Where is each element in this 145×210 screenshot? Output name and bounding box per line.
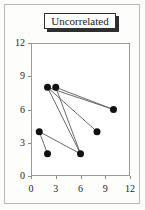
y-tick-label: 12 bbox=[7, 38, 25, 48]
chart-title-frame: Uncorrelated bbox=[44, 13, 116, 29]
x-tick-mark bbox=[31, 176, 32, 179]
data-point-marker bbox=[44, 150, 51, 157]
chart-title-box: Uncorrelated bbox=[44, 13, 118, 31]
x-tick-mark bbox=[81, 176, 82, 179]
chart-title-text: Uncorrelated bbox=[51, 16, 108, 27]
data-point-marker bbox=[77, 150, 84, 157]
x-tick-mark bbox=[105, 176, 106, 179]
x-tick-label: 6 bbox=[72, 184, 90, 194]
x-tick-label: 9 bbox=[96, 184, 114, 194]
data-point-marker bbox=[36, 128, 43, 135]
y-tick-mark bbox=[28, 43, 31, 44]
x-tick-label: 12 bbox=[121, 184, 139, 194]
data-point-marker bbox=[94, 128, 101, 135]
data-point-marker bbox=[110, 106, 117, 113]
scatter-plot-canvas bbox=[31, 43, 130, 176]
y-tick-mark bbox=[28, 76, 31, 77]
data-point-marker bbox=[44, 84, 51, 91]
y-tick-mark bbox=[28, 110, 31, 111]
y-tick-label: 0 bbox=[7, 171, 25, 181]
y-tick-label: 6 bbox=[7, 105, 25, 115]
figure-root: Uncorrelated 036912 036912 bbox=[0, 0, 145, 210]
connector-line bbox=[39, 132, 80, 154]
x-tick-mark bbox=[130, 176, 131, 179]
x-tick-label: 3 bbox=[47, 184, 65, 194]
y-tick-mark bbox=[28, 143, 31, 144]
connector-line bbox=[48, 87, 81, 154]
y-tick-label: 9 bbox=[7, 71, 25, 81]
y-tick-label: 3 bbox=[7, 138, 25, 148]
data-point-marker bbox=[52, 84, 59, 91]
x-tick-mark bbox=[56, 176, 57, 179]
connector-line bbox=[56, 87, 114, 109]
x-tick-label: 0 bbox=[22, 184, 40, 194]
